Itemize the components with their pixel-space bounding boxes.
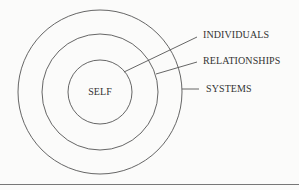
relationships-leader-line [156,62,197,74]
individuals-label: INDIVIDUALS [203,29,269,40]
systems-label: SYSTEMS [206,83,252,94]
relationships-label: RELATIONSHIPS [203,55,280,66]
self-label: SELF [88,86,112,97]
concentric-circles-diagram: SELF INDIVIDUALS RELATIONSHIPS SYSTEMS [0,0,299,190]
individuals-leader-line [124,37,197,72]
